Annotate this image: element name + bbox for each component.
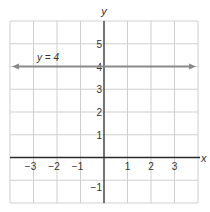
- x-axis-label: x: [200, 152, 207, 164]
- coordinate-plane: −3−2−1123−112345 x y y = 4: [0, 0, 210, 212]
- equation-label: y = 4: [36, 52, 59, 63]
- x-tick-label: −2: [48, 161, 60, 172]
- x-tick-label: −1: [72, 161, 84, 172]
- y-tick-label: 1: [96, 130, 102, 141]
- arrow-right-icon: [189, 64, 196, 70]
- x-tick-label: 1: [125, 161, 131, 172]
- y-tick-label: 5: [96, 39, 102, 50]
- x-tick-label: 2: [148, 161, 154, 172]
- x-tick-label: 3: [172, 161, 178, 172]
- y-axis-label: y: [100, 5, 108, 17]
- arrow-left-icon: [12, 64, 19, 70]
- x-tick-label: −3: [25, 161, 37, 172]
- y-tick-label: 3: [96, 84, 102, 95]
- y-tick-label: −1: [91, 182, 103, 193]
- y-tick-label: 2: [96, 107, 102, 118]
